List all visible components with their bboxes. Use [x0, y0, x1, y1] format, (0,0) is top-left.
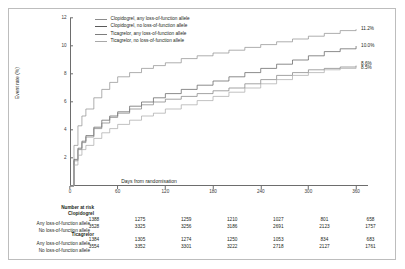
y-tick-8: 8: [41, 72, 71, 77]
risk-cell: 1384: [89, 238, 99, 243]
risk-cell: 3325: [135, 225, 145, 230]
x-tick-mark: [308, 186, 309, 189]
figure-panel: 24681012 060120180240300360 Event rate (…: [0, 0, 405, 269]
x-tick-120: 120: [162, 186, 170, 194]
x-tick-mark: [260, 186, 261, 189]
risk-cell: 683: [367, 238, 375, 243]
km-curve-0: [70, 29, 356, 186]
legend-item-label: Ticagrelor, any loss-of-function allele: [111, 32, 187, 37]
risk-cell: 3554: [89, 245, 99, 250]
legend-item-2: Ticagrelor, any loss-of-function allele: [95, 30, 190, 37]
numbers-at-risk-table: Number at risk ClopidogrelAny loss-of-fu…: [22, 205, 382, 252]
risk-cell: 1761: [365, 245, 375, 250]
endpoint-label-0: 11.2%: [361, 27, 374, 32]
legend-line-swatch: [95, 19, 107, 20]
risk-row-values: 3528332532563186269121231757: [94, 225, 382, 232]
x-tick-mark: [70, 186, 71, 189]
legend-line-swatch: [95, 34, 107, 35]
x-tick-360: 360: [352, 186, 360, 194]
risk-cell: 1275: [135, 218, 145, 223]
legend-item-label: Ticagrelor, no loss-of-function allele: [111, 39, 185, 44]
legend-line-swatch: [95, 41, 107, 42]
x-axis-label: Days from randomisation: [121, 178, 177, 184]
risk-row-values: 3554335233013222271821271761: [94, 245, 382, 252]
risk-cell: 658: [367, 218, 375, 223]
x-tick-300: 300: [305, 186, 313, 194]
legend-item-3: Ticagrelor, no loss-of-function allele: [95, 38, 190, 45]
x-tick-240: 240: [257, 186, 265, 194]
y-tick-10: 10: [41, 44, 71, 49]
x-tick-180: 180: [209, 186, 217, 194]
risk-row-label: Any loss-of-function allele: [22, 242, 94, 247]
risk-cell: 3256: [181, 225, 191, 230]
endpoint-label-1: 10.0%: [361, 44, 374, 49]
y-tick-12: 12: [41, 16, 71, 21]
x-tick-mark: [165, 186, 166, 189]
legend-item-1: Clopidogrel, no loss-of-function allele: [95, 23, 190, 30]
y-tick-6: 6: [41, 100, 71, 105]
endpoint-label-3: 8.5%: [361, 66, 372, 71]
chart-legend: Clopidogrel, any loss-of-function allele…: [95, 16, 190, 45]
risk-cell: 3186: [227, 225, 237, 230]
x-tick-60: 60: [115, 186, 120, 194]
risk-cell: 801: [320, 218, 328, 223]
risk-cell: 1305: [135, 238, 145, 243]
legend-item-0: Clopidogrel, any loss-of-function allele: [95, 16, 190, 23]
x-tick-mark: [213, 186, 214, 189]
risk-cell: 1757: [365, 225, 375, 230]
risk-cell: 1053: [273, 238, 283, 243]
legend-item-label: Clopidogrel, any loss-of-function allele: [111, 17, 190, 22]
risk-row-label: Any loss-of-function allele: [22, 222, 94, 227]
risk-cell: 2127: [319, 245, 329, 250]
risk-cell: 2123: [319, 225, 329, 230]
risk-cell: 1388: [89, 218, 99, 223]
x-tick-mark: [117, 186, 118, 189]
risk-cell: 1210: [227, 218, 237, 223]
legend-line-swatch: [95, 26, 107, 27]
km-curve-1: [70, 46, 356, 186]
y-tick-2: 2: [41, 156, 71, 161]
risk-cell: 3222: [227, 245, 237, 250]
risk-cell: 3528: [89, 225, 99, 230]
risk-cell: 1250: [227, 238, 237, 243]
risk-row-label: No loss-of-function allele: [22, 249, 94, 254]
risk-cell: 1027: [273, 218, 283, 223]
y-axis-label: Event rate (%): [14, 67, 20, 99]
risk-cell: 3301: [181, 245, 191, 250]
risk-cell: 2691: [273, 225, 283, 230]
risk-cell: 2718: [273, 245, 283, 250]
risk-cell: 3352: [135, 245, 145, 250]
risk-cell: 1259: [181, 218, 191, 223]
y-tick-4: 4: [41, 128, 71, 133]
x-tick-0: 0: [69, 186, 72, 194]
risk-cell: 834: [320, 238, 328, 243]
risk-cell: 1274: [181, 238, 191, 243]
legend-item-label: Clopidogrel, no loss-of-function allele: [111, 24, 188, 29]
x-tick-mark: [356, 186, 357, 189]
